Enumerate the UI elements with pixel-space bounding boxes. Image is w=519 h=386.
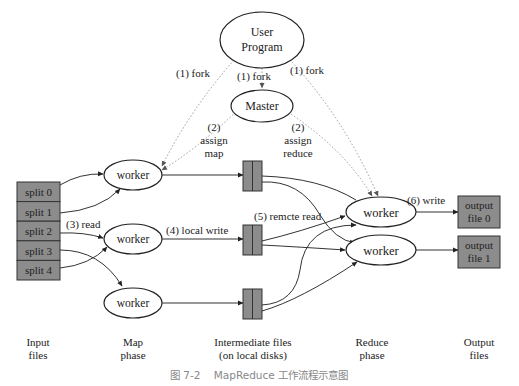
fork-label-center: (1) fork [237,70,271,83]
phase-reduce: Reduce phase [356,336,389,361]
fork-edge-right [292,62,378,196]
svg-text:file 1: file 1 [468,252,491,264]
write-edges [416,212,458,250]
split-3: split 3 [25,245,53,257]
split-2: split 2 [25,225,52,237]
user-program-label-2: Program [241,40,283,54]
split-1: split 1 [25,206,52,218]
mapreduce-diagram: User Program Master (1) fork (1) fork (1… [0,0,519,386]
phase-input-files: Input files [26,336,49,361]
write-label: (6) write [407,194,445,207]
svg-text:Output: Output [464,336,495,348]
map-worker-1: worker [104,224,162,254]
svg-text:(2): (2) [292,121,305,134]
svg-text:Intermediate files: Intermediate files [214,336,291,348]
split-4: split 4 [25,264,53,276]
reduce-worker-1: worker [346,235,416,265]
svg-text:assign: assign [200,134,228,146]
reduce-worker-0: worker [346,197,416,227]
svg-text:worker: worker [363,206,399,220]
svg-text:(on local disks): (on local disks) [219,349,287,362]
svg-text:files: files [470,349,489,361]
fork-label-left: (1) fork [176,67,210,80]
phase-labels: Input files Map phase Intermediate files… [26,336,494,362]
intermediate-file-2 [243,289,262,319]
svg-text:Reduce: Reduce [356,336,389,348]
user-program-node: User Program [220,12,304,68]
read-label: (3) read [66,218,101,231]
phase-intermediate-files: Intermediate files (on local disks) [214,336,291,362]
local-write-label: (4) local write [166,224,228,237]
svg-text:worker: worker [117,297,150,309]
remote-read-label: (5) remcte read [254,210,322,223]
svg-text:worker: worker [363,244,399,258]
svg-text:output: output [465,199,493,211]
phase-output-files: Output files [464,336,495,361]
map-worker-0: worker [104,160,162,190]
input-splits: split 0 split 1 split 2 split 3 split 4 [17,182,60,280]
intermediate-file-1 [243,225,262,255]
svg-text:phase: phase [359,349,384,361]
intermediate-file-0 [243,161,262,191]
svg-text:reduce: reduce [283,147,312,159]
figure-caption: 图 7-2 MapReduce 工作流程示意图 [170,369,348,381]
svg-text:Input: Input [26,336,49,348]
master-node: Master [231,90,293,122]
svg-text:assign: assign [284,134,312,146]
user-program-label-1: User [251,25,274,39]
map-worker-2: worker [104,288,162,318]
svg-text:files: files [29,349,48,361]
svg-text:worker: worker [117,233,150,245]
phase-map: Map phase [120,336,145,361]
svg-text:map: map [205,147,224,159]
local-write-edges [162,175,243,303]
svg-text:output: output [465,239,493,251]
master-label: Master [245,99,278,113]
output-file-1: output file 1 [458,236,500,268]
svg-text:file 0: file 0 [468,212,491,224]
remote-read-edges [262,176,357,311]
split-0: split 0 [25,186,53,198]
svg-text:phase: phase [120,349,145,361]
svg-text:Map: Map [123,336,144,348]
svg-text:(2): (2) [208,121,221,134]
fork-label-right: (1) fork [290,64,324,77]
assign-map-label: (2) assign map [200,121,228,159]
output-file-0: output file 0 [458,196,500,228]
svg-text:worker: worker [117,169,150,181]
